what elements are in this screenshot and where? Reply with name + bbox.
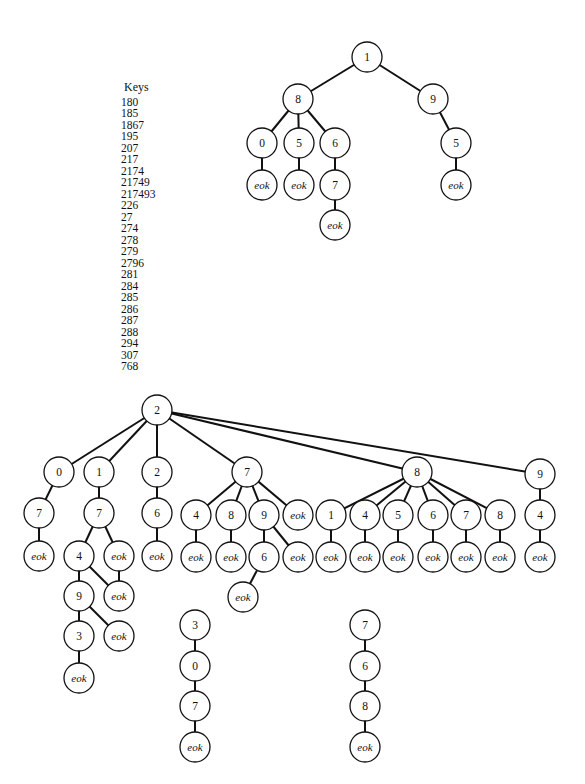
tree-node: 6 [320, 128, 350, 158]
tree-edge [157, 410, 540, 474]
tree-node: 5 [441, 128, 471, 158]
node-label: eok [458, 551, 474, 563]
node-label: 6 [261, 551, 267, 563]
end-of-key-node: eok [525, 542, 555, 572]
node-label: 2 [154, 404, 160, 416]
tree-node: 0 [44, 457, 74, 487]
end-of-key-node: eok [283, 542, 313, 572]
end-of-key-node: eok [441, 170, 471, 200]
node-label: eok [357, 551, 373, 563]
node-label: 2 [154, 466, 160, 478]
tree-1: 1890565eokeok7eokeok [247, 42, 471, 240]
end-of-key-node: eok [24, 541, 54, 571]
node-label: eok [254, 179, 270, 191]
tree-node: 9 [249, 500, 279, 530]
tree-node: 4 [64, 541, 94, 571]
node-label: 9 [261, 509, 267, 521]
node-label: 3 [192, 619, 198, 631]
tree-node: 6 [418, 500, 448, 530]
node-label: eok [291, 179, 307, 191]
node-label: eok [327, 219, 343, 231]
tree-node: 0 [180, 651, 210, 681]
tree-node: 5 [284, 128, 314, 158]
node-label: 5 [395, 509, 401, 521]
node-label: 6 [154, 507, 160, 519]
end-of-key-node: eok [316, 542, 346, 572]
node-label: 8 [414, 466, 420, 478]
tree-node: 5 [383, 500, 413, 530]
node-label: 8 [228, 509, 234, 521]
node-label: 0 [56, 466, 62, 478]
end-of-key-node: eok [228, 582, 258, 612]
tree-node: 6 [350, 651, 380, 681]
node-label: 7 [362, 619, 368, 631]
tree-node: 3 [180, 610, 210, 640]
node-label: 4 [76, 550, 82, 562]
end-of-key-node: eok [180, 732, 210, 762]
chain-3-0-7: 307eok [180, 610, 210, 762]
tree-node: 4 [350, 500, 380, 530]
end-of-key-node: eok [320, 210, 350, 240]
node-label: eok [188, 551, 204, 563]
node-label: 8 [295, 93, 301, 105]
node-label: eok [390, 551, 406, 563]
node-label: eok [357, 741, 373, 753]
end-of-key-node: eok [284, 170, 314, 200]
node-label: eok [71, 672, 87, 684]
end-of-key-node: eok [283, 500, 313, 530]
node-label: 6 [362, 660, 368, 672]
node-label: 7 [96, 507, 102, 519]
node-label: eok [187, 741, 203, 753]
tree-node: 6 [142, 498, 172, 528]
node-label: 7 [332, 179, 338, 191]
tree-node: 2 [142, 395, 172, 425]
tree-node: 9 [418, 84, 448, 114]
tree-node: 8 [283, 84, 313, 114]
node-label: 7 [192, 700, 198, 712]
node-label: 7 [36, 507, 42, 519]
node-label: eok [448, 179, 464, 191]
node-label: eok [111, 590, 127, 602]
node-label: 1 [364, 51, 370, 63]
node-label: eok [425, 551, 441, 563]
end-of-key-node: eok [383, 542, 413, 572]
tree-node: 7 [180, 691, 210, 721]
node-label: 9 [430, 93, 436, 105]
tree-node: 2 [142, 457, 172, 487]
node-label: 9 [76, 590, 82, 602]
tree-edge [157, 410, 247, 472]
end-of-key-node: eok [247, 170, 277, 200]
tree-2: 2012789776489eok1456784eok4eokeokeokeok6… [24, 395, 555, 693]
end-of-key-node: eok [142, 541, 172, 571]
end-of-key-node: eok [181, 542, 211, 572]
node-label: 4 [537, 509, 543, 521]
node-label: eok [323, 551, 339, 563]
end-of-key-node: eok [64, 663, 94, 693]
tree-node: 4 [181, 500, 211, 530]
tree-node: 8 [216, 500, 246, 530]
node-label: 3 [76, 630, 82, 642]
node-label: eok [235, 591, 251, 603]
node-label: eok [149, 550, 165, 562]
node-label: 6 [332, 137, 338, 149]
node-label: 7 [463, 509, 469, 521]
tree-node: 0 [247, 128, 277, 158]
node-label: eok [492, 551, 508, 563]
node-label: eok [111, 550, 127, 562]
tree-node: 8 [485, 500, 515, 530]
tree-node: 3 [64, 621, 94, 651]
node-label: 9 [537, 468, 543, 480]
node-label: 5 [296, 137, 302, 149]
end-of-key-node: eok [451, 542, 481, 572]
end-of-key-node: eok [418, 542, 448, 572]
end-of-key-node: eok [350, 732, 380, 762]
node-label: eok [290, 551, 306, 563]
tree-edge [157, 410, 417, 472]
node-label: eok [223, 551, 239, 563]
node-label: 5 [453, 137, 459, 149]
node-label: 4 [193, 509, 199, 521]
tree-node: 4 [525, 500, 555, 530]
node-label: eok [31, 550, 47, 562]
tree-node: 8 [350, 691, 380, 721]
end-of-key-node: eok [104, 541, 134, 571]
